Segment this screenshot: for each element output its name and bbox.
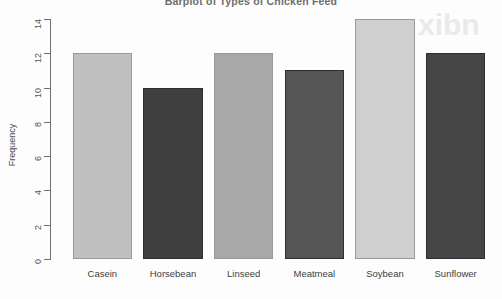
bar bbox=[214, 53, 274, 259]
bar bbox=[426, 53, 486, 259]
plot-area: CaseinHorsebeanLinseedMeatmealSoybeanSun… bbox=[0, 0, 502, 299]
bar-category-label: Sunflower bbox=[426, 268, 486, 279]
bar bbox=[73, 53, 133, 259]
bar bbox=[143, 88, 203, 259]
bar-category-label: Casein bbox=[73, 268, 133, 279]
bar bbox=[355, 19, 415, 259]
bar-category-label: Meatmeal bbox=[285, 268, 345, 279]
bar bbox=[285, 70, 345, 259]
bar-category-label: Soybean bbox=[355, 268, 415, 279]
bar-category-label: Linseed bbox=[214, 268, 274, 279]
barplot-figure: xibn Barplot of Types of Chicken Feed Fr… bbox=[0, 0, 502, 299]
bar-category-label: Horsebean bbox=[143, 268, 203, 279]
